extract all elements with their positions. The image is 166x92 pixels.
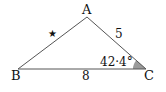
side-ac-label: 5 — [115, 27, 123, 41]
angle-c-label: 42·4° — [100, 55, 133, 69]
vertex-b-label: B — [11, 68, 21, 83]
vertex-c-label: C — [144, 68, 154, 83]
side-bc-label: 8 — [82, 69, 90, 83]
vertex-a-label: A — [81, 2, 92, 17]
side-ab-unknown-star: ★ — [48, 28, 57, 39]
triangle-diagram: A B C 5 8 ★ 42·4° — [0, 0, 166, 92]
